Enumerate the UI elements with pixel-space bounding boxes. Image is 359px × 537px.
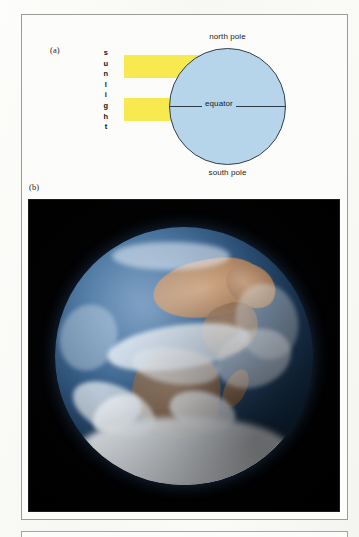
sunlight-letter: s xyxy=(100,48,112,59)
sunlight-letter: i xyxy=(100,90,112,101)
panel-a-diagram: (a) s u n l i g h t north pole equator s… xyxy=(21,14,348,180)
panel-label-b: (b) xyxy=(29,182,39,192)
sunlight-letter: h xyxy=(100,112,112,123)
north-pole-label: north pole xyxy=(169,32,286,41)
sunlight-letter: g xyxy=(100,101,112,112)
sunlight-letter: t xyxy=(100,122,112,133)
sunlight-letter: l xyxy=(100,80,112,91)
south-pole-label: south pole xyxy=(169,168,286,177)
earth-photograph xyxy=(28,199,340,512)
earth-globe xyxy=(55,227,313,485)
sunlight-label: s u n l i g h t xyxy=(100,48,112,133)
next-figure-frame-edge xyxy=(21,531,348,537)
sunlight-letter: n xyxy=(100,69,112,80)
sunlight-letter: u xyxy=(100,59,112,70)
limb-shading xyxy=(55,227,313,485)
panel-label-a: (a) xyxy=(50,45,60,55)
equator-label: equator xyxy=(202,99,236,108)
space-background xyxy=(29,200,339,511)
